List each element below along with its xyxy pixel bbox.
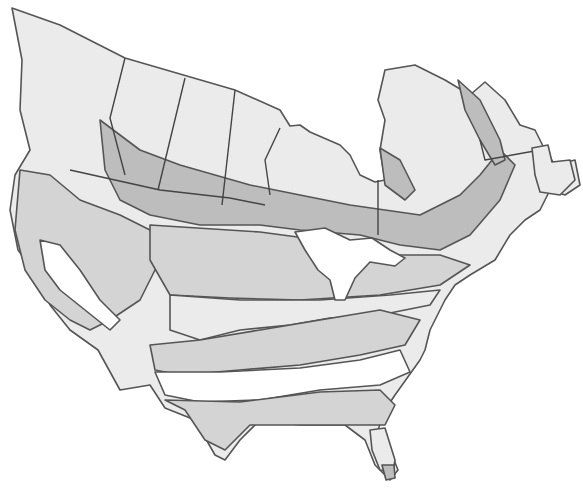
zone-florida-tip	[382, 465, 395, 480]
newfoundland	[532, 145, 575, 195]
north-america-map-svg	[0, 0, 583, 491]
zone-map	[0, 0, 583, 491]
